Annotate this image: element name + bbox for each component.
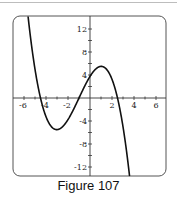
- figure-caption: Figure 107: [0, 178, 177, 193]
- y-tick-label: 12: [77, 25, 87, 34]
- x-tick-label: 4: [131, 101, 136, 110]
- axes: [13, 16, 166, 176]
- y-tick-label: 8: [82, 48, 87, 57]
- y-tick-label: -4: [79, 117, 87, 126]
- x-tick-label: 6: [153, 101, 158, 110]
- x-tick-label: 2: [109, 101, 114, 110]
- function-curve: [28, 16, 130, 176]
- y-tick-label: 4: [82, 71, 87, 80]
- function-plot: -6-4-22461284-4-8-12: [0, 0, 177, 178]
- x-tick-label: -6: [19, 101, 27, 110]
- plot-frame: [13, 16, 166, 176]
- x-tick-label: -2: [63, 101, 71, 110]
- y-tick-label: -8: [79, 140, 87, 149]
- y-tick-label: -12: [74, 163, 87, 172]
